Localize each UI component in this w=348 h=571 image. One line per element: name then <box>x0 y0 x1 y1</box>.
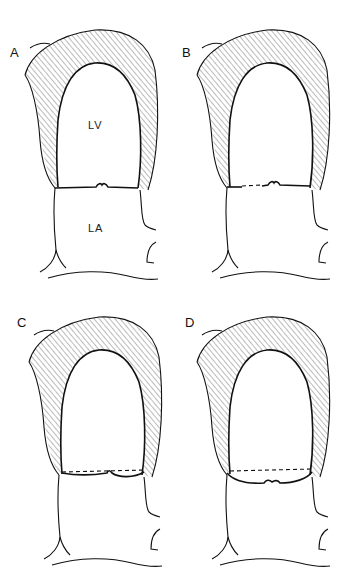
lv-label: LV <box>88 119 103 131</box>
panel-c: C <box>17 315 162 566</box>
annulus-line-c <box>62 470 146 472</box>
mitral-valve-b <box>262 182 310 186</box>
panel-b: B <box>182 30 330 280</box>
mitral-valve-a <box>55 184 138 188</box>
panel-d: D <box>185 315 330 566</box>
panel-label-c: C <box>17 315 26 330</box>
heart-diagram-figure: A LV LA B C D <box>0 0 348 571</box>
annulus-line-d <box>230 469 312 471</box>
panel-label-b: B <box>182 45 191 60</box>
mitral-valve-d <box>227 472 312 483</box>
mitral-valve-c <box>62 471 144 477</box>
panel-a: A LV LA <box>10 30 158 280</box>
panel-label-a: A <box>10 45 19 60</box>
la-label: LA <box>88 222 103 234</box>
panel-label-d: D <box>185 315 194 330</box>
